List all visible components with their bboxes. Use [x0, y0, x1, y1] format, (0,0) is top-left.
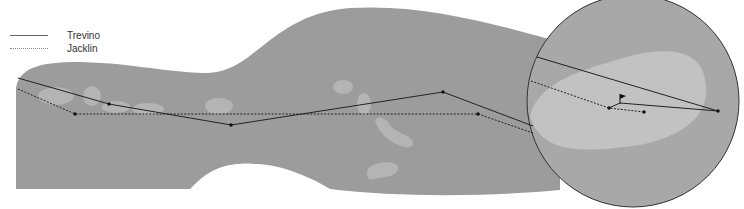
- golf-hole-map: [0, 0, 744, 209]
- solid-line-icon: [10, 35, 48, 36]
- legend-item-jacklin: Jacklin: [10, 42, 100, 55]
- dotted-line-icon: [10, 48, 48, 49]
- legend-label: Trevino: [67, 30, 100, 41]
- legend-label: Jacklin: [67, 43, 98, 54]
- green-inset: [527, 0, 739, 207]
- legend-item-trevino: Trevino: [10, 29, 100, 42]
- legend: Trevino Jacklin: [10, 29, 100, 55]
